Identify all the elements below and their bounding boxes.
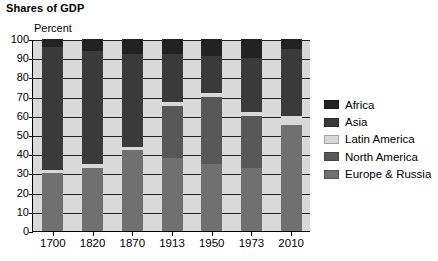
x-axis-tick-label: 1950 bbox=[199, 237, 225, 249]
legend-swatch bbox=[324, 152, 339, 161]
bar-segment bbox=[82, 164, 103, 168]
y-axis-tick-label: 60 bbox=[3, 110, 29, 123]
y-tick-mark bbox=[29, 59, 33, 60]
y-tick-mark bbox=[29, 98, 33, 99]
y-axis-tick-label: 0 bbox=[3, 225, 29, 238]
bar-segment bbox=[201, 56, 222, 92]
x-axis-tick-label: 1913 bbox=[159, 237, 185, 249]
y-axis-tick-label: 20 bbox=[3, 187, 29, 200]
bar-segment bbox=[281, 125, 302, 231]
bar-segment bbox=[122, 39, 143, 54]
bar-segment bbox=[122, 147, 143, 151]
bar-segment bbox=[162, 106, 183, 158]
bar-1913 bbox=[162, 39, 183, 231]
chart-legend: AfricaAsiaLatin AmericaNorth AmericaEuro… bbox=[324, 96, 431, 183]
bar-segment bbox=[281, 39, 302, 49]
legend-label: Europe & Russia bbox=[345, 168, 431, 180]
bar-segment bbox=[42, 47, 63, 170]
bar-segment bbox=[162, 158, 183, 231]
legend-item: Asia bbox=[324, 113, 431, 130]
legend-label: Africa bbox=[345, 99, 374, 111]
bar-1700 bbox=[42, 39, 63, 231]
bar-segment bbox=[241, 39, 262, 58]
stacked-bar-chart: Percent 01020304050607080901001700182018… bbox=[0, 0, 438, 261]
bar-segment bbox=[241, 168, 262, 231]
x-tick-mark bbox=[53, 231, 54, 236]
legend-item: Latin America bbox=[324, 131, 431, 148]
y-axis-tick-label: 80 bbox=[3, 71, 29, 84]
y-axis-tick-label: 40 bbox=[3, 148, 29, 161]
plot-area: 0102030405060708090100170018201870191319… bbox=[32, 40, 310, 232]
bar-1973 bbox=[241, 39, 262, 231]
bar-2010 bbox=[281, 39, 302, 231]
bar-segment bbox=[42, 173, 63, 231]
bar-segment bbox=[201, 93, 222, 97]
legend-swatch bbox=[324, 170, 339, 179]
legend-swatch bbox=[324, 135, 339, 144]
bar-segment bbox=[162, 102, 183, 106]
x-tick-mark bbox=[212, 231, 213, 236]
bar-segment bbox=[82, 51, 103, 164]
legend-item: Africa bbox=[324, 96, 431, 113]
x-axis-tick-label: 1700 bbox=[40, 237, 66, 249]
y-axis-tick-label: 30 bbox=[3, 167, 29, 180]
bar-segment bbox=[241, 58, 262, 112]
x-axis-tick-label: 1820 bbox=[80, 237, 106, 249]
x-tick-mark bbox=[291, 231, 292, 236]
bar-1950 bbox=[201, 39, 222, 231]
legend-swatch bbox=[324, 118, 339, 127]
y-tick-mark bbox=[29, 194, 33, 195]
bar-segment bbox=[201, 164, 222, 231]
legend-item: North America bbox=[324, 148, 431, 165]
bar-segment bbox=[42, 39, 63, 47]
y-tick-mark bbox=[29, 136, 33, 137]
bar-segment bbox=[122, 54, 143, 146]
bar-segment bbox=[162, 39, 183, 54]
x-tick-mark bbox=[93, 231, 94, 236]
bar-segment bbox=[162, 54, 183, 102]
y-tick-mark bbox=[29, 117, 33, 118]
x-tick-mark bbox=[251, 231, 252, 236]
bar-segment bbox=[42, 170, 63, 174]
x-axis-tick-label: 1973 bbox=[239, 237, 265, 249]
y-axis-tick-label: 90 bbox=[3, 52, 29, 65]
y-tick-mark bbox=[29, 213, 33, 214]
bar-segment bbox=[241, 116, 262, 168]
legend-swatch bbox=[324, 100, 339, 109]
y-tick-mark bbox=[29, 155, 33, 156]
y-axis-tick-label: 10 bbox=[3, 206, 29, 219]
legend-label: Asia bbox=[345, 116, 367, 128]
x-tick-mark bbox=[132, 231, 133, 236]
bar-1870 bbox=[122, 39, 143, 231]
bar-1820 bbox=[82, 39, 103, 231]
bar-segment bbox=[281, 116, 302, 126]
y-axis-tick-label: 70 bbox=[3, 91, 29, 104]
y-axis-tick-label: 100 bbox=[3, 33, 29, 46]
legend-item: Europe & Russia bbox=[324, 166, 431, 183]
bar-segment bbox=[281, 49, 302, 116]
x-axis-tick-label: 2010 bbox=[278, 237, 304, 249]
legend-label: North America bbox=[345, 151, 418, 163]
x-axis-tick-label: 1870 bbox=[119, 237, 145, 249]
bar-segment bbox=[82, 39, 103, 51]
bar-segment bbox=[241, 112, 262, 116]
y-tick-mark bbox=[29, 232, 33, 233]
legend-label: Latin America bbox=[345, 133, 415, 145]
x-tick-mark bbox=[172, 231, 173, 236]
y-axis-tick-label: 50 bbox=[3, 129, 29, 142]
bar-segment bbox=[82, 168, 103, 231]
bar-segment bbox=[201, 39, 222, 56]
y-tick-mark bbox=[29, 40, 33, 41]
bar-segment bbox=[122, 150, 143, 231]
y-axis-label: Percent bbox=[34, 22, 72, 34]
y-tick-mark bbox=[29, 174, 33, 175]
bar-segment bbox=[201, 97, 222, 164]
y-tick-mark bbox=[29, 78, 33, 79]
